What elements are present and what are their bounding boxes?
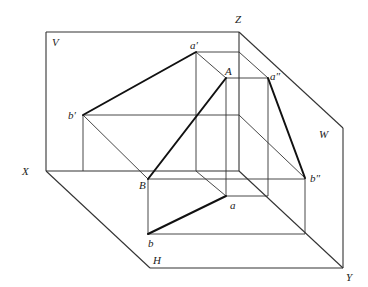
point-label-B: B (139, 180, 146, 191)
point-label-b: b (148, 238, 154, 249)
point-label-a-prime: a′ (190, 40, 198, 51)
y-axis (239, 171, 343, 268)
point-label-a: a (230, 200, 236, 211)
axis-label-y: Y (346, 272, 352, 283)
line-AB (148, 78, 226, 179)
point-label-b-prime: b′ (68, 110, 76, 121)
w-plane (239, 32, 343, 268)
plane-label-w: W (319, 129, 328, 140)
axes (46, 32, 343, 268)
plane-label-h: H (153, 255, 161, 266)
point-label-b-double-prime: b″ (310, 173, 320, 184)
plane-label-v: V (52, 37, 59, 48)
axis-label-z: Z (235, 14, 241, 25)
axis-label-x: X (22, 166, 29, 177)
line-ab (148, 196, 226, 234)
line-a-double-prime-b-double-prime (268, 78, 305, 178)
point-label-A: A (225, 66, 232, 77)
h-plane (46, 171, 343, 268)
point-label-a-double-prime: a″ (270, 71, 280, 82)
line-a-prime-b-prime (83, 52, 196, 115)
v-plane (46, 32, 239, 171)
